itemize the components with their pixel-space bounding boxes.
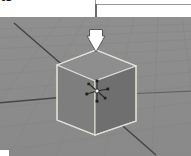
annotation-callout-box [95,0,191,5]
transform-manipulator-gizmo[interactable] [84,79,110,103]
screenshot-root: 3D [0,0,191,156]
annotation-arrow-icon [86,29,106,53]
bottom-left-margin [0,150,9,156]
clipped-caption-text: 3D [1,0,13,3]
